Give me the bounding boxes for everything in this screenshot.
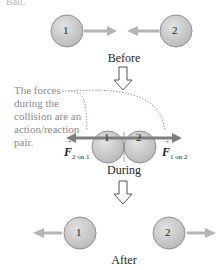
force-1on2-symbol: F (162, 145, 170, 160)
ball-2-during-label: 2 (136, 131, 142, 143)
ball-1-before-label: 1 (63, 24, 69, 36)
during-label: During (94, 163, 154, 178)
force-2on1-subscript: 2 on 1 (72, 153, 90, 161)
top-fragment-text: Ball. (6, 0, 25, 7)
ball-1-during-label: 1 (104, 131, 110, 143)
stage-arrow-1 (114, 67, 132, 90)
ball-2-before-label: 2 (172, 24, 178, 36)
after-label: After (94, 253, 154, 268)
stage-arrow-2 (114, 181, 132, 204)
before-stage (51, 15, 192, 47)
ball2-after-arrow (205, 228, 216, 238)
ball-2-after-label: 2 (165, 226, 171, 238)
annotation-text: The forces during the collision are an a… (14, 84, 84, 149)
before-label: Before (94, 51, 154, 66)
ball1-after-arrow (33, 228, 44, 238)
force-1on2-subscript: 1 on 2 (170, 153, 188, 161)
after-stage (33, 217, 216, 249)
force-1on2-arrowhead (172, 133, 182, 143)
ball-1-after-label: 1 (76, 226, 82, 238)
force-2on1-label: F2 on 1 (64, 145, 90, 161)
force-1on2-label: F1 on 2 (162, 145, 188, 161)
force-2on1-symbol: F (64, 145, 72, 160)
